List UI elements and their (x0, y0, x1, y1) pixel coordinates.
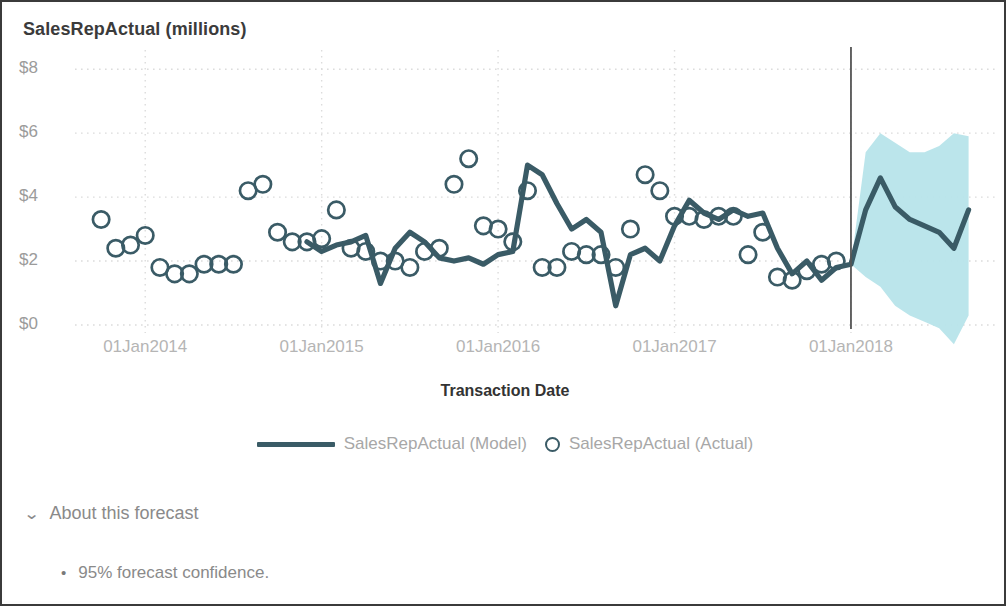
legend-item-model[interactable]: SalesRepActual (Model) (257, 434, 527, 454)
y-axis-tick-label: $6 (19, 122, 38, 142)
x-axis-tick-label: 01Jan2018 (771, 337, 931, 357)
panel-inner: SalesRepActual (millions) $0$2$4$6$8 01J… (5, 5, 1001, 601)
x-axis-tick-label: 01Jan2014 (65, 337, 225, 357)
x-axis-tick-label: 01Jan2016 (418, 337, 578, 357)
legend-item-actual[interactable]: SalesRepActual (Actual) (545, 434, 753, 454)
forecast-chart-panel: SalesRepActual (millions) $0$2$4$6$8 01J… (0, 0, 1006, 606)
circle-marker-icon (545, 437, 560, 452)
legend-label-actual: SalesRepActual (Actual) (569, 434, 753, 454)
about-this-forecast-toggle[interactable]: ⌄ About this forecast (25, 503, 199, 524)
y-axis-tick-label: $0 (19, 314, 38, 334)
y-axis-tick-label: $2 (19, 250, 38, 270)
line-marker-icon (257, 442, 335, 447)
list-item: • 95% forecast confidence. (61, 563, 269, 583)
chart-legend: SalesRepActual (Model) SalesRepActual (A… (5, 434, 1001, 454)
y-axis-tick-label: $4 (19, 186, 38, 206)
legend-label-model: SalesRepActual (Model) (344, 434, 527, 454)
x-axis-title: Transaction Date (5, 382, 1001, 400)
x-axis-tick-label: 01Jan2015 (242, 337, 402, 357)
forecast-notes-list: • 95% forecast confidence. (61, 563, 269, 583)
chevron-down-icon: ⌄ (23, 506, 40, 522)
x-axis-tick-label: 01Jan2017 (595, 337, 755, 357)
forecast-confidence-note: 95% forecast confidence. (78, 563, 269, 583)
y-axis-tick-label: $8 (19, 58, 38, 78)
bullet-icon: • (61, 565, 66, 580)
about-this-forecast-label: About this forecast (49, 503, 198, 524)
